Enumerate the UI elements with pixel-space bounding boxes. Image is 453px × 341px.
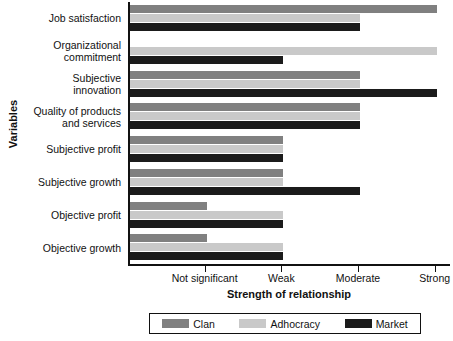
y-tick-label-job-satisfaction: Job satisfaction	[18, 2, 124, 35]
bar-group-subjective-growth	[130, 166, 450, 199]
bar-group-subjective-profit	[130, 133, 450, 166]
y-tick-label-subjective-profit: Subjective profit	[18, 133, 124, 166]
y-tick-label-objective-growth: Objective growth	[18, 231, 124, 264]
bar-group-quality-of-products-and-services	[130, 100, 450, 133]
bar-clan-subjective-growth	[130, 169, 283, 177]
y-tick-label-subjective-growth: Subjective growth	[18, 166, 124, 199]
label-line-1: Job satisfaction	[49, 12, 121, 24]
x-axis-line	[128, 264, 450, 266]
bar-market-quality-of-products-and-services	[130, 121, 360, 129]
legend-swatch-clan	[162, 319, 189, 328]
y-tick-label-quality-of-products-and-services: Quality of products and services	[18, 100, 124, 133]
x-tick-label-not-significant: Not significant	[172, 272, 238, 284]
label-line-2: innovation	[73, 84, 121, 96]
bar-group-organizational-commitment	[130, 35, 450, 68]
y-tick-label-subjective-innovation: Subjective innovation	[18, 68, 124, 101]
legend-label-adhocracy: Adhocracy	[270, 318, 320, 330]
legend-swatch-market	[345, 319, 372, 328]
label-line-1: Subjective growth	[38, 176, 121, 188]
bar-clan-objective-growth	[130, 234, 207, 242]
bar-adhocracy-objective-profit	[130, 211, 283, 219]
bar-market-organizational-commitment	[130, 56, 283, 64]
bar-clan-subjective-profit	[130, 136, 283, 144]
bar-adhocracy-subjective-innovation	[130, 80, 360, 88]
bar-clan-quality-of-products-and-services	[130, 103, 360, 111]
label-line-1: Subjective	[73, 72, 121, 84]
bar-adhocracy-subjective-profit	[130, 145, 283, 153]
chart-legend: Clan Adhocracy Market	[149, 313, 421, 334]
bar-chart: Variables Job satisfaction Organizationa…	[0, 0, 453, 341]
y-axis-tick-labels: Job satisfaction Organizational commitme…	[18, 2, 124, 264]
bar-clan-job-satisfaction	[130, 5, 437, 13]
legend-item-clan: Clan	[162, 318, 215, 330]
bar-market-subjective-profit	[130, 154, 283, 162]
bar-adhocracy-subjective-growth	[130, 178, 283, 186]
bar-clan-objective-profit	[130, 202, 207, 210]
bar-adhocracy-quality-of-products-and-services	[130, 112, 360, 120]
plot-area	[128, 2, 450, 264]
bar-clan-subjective-innovation	[130, 71, 360, 79]
y-tick-label-organizational-commitment: Organizational commitment	[18, 35, 124, 68]
y-tick-label-objective-profit: Objective profit	[18, 199, 124, 232]
label-line-1: Objective profit	[51, 209, 121, 221]
bar-market-objective-profit	[130, 220, 283, 228]
bar-group-objective-growth	[130, 231, 450, 264]
label-line-2: and services	[33, 117, 121, 129]
legend-item-market: Market	[345, 318, 408, 330]
bar-market-subjective-growth	[130, 187, 360, 195]
bar-group-job-satisfaction	[130, 2, 450, 35]
bar-group-objective-profit	[130, 199, 450, 232]
legend-swatch-adhocracy	[239, 319, 266, 328]
label-line-1: Organizational	[53, 39, 121, 51]
legend-item-adhocracy: Adhocracy	[239, 318, 320, 330]
label-line-1: Subjective profit	[46, 143, 121, 155]
bar-market-objective-growth	[130, 252, 283, 260]
label-line-2: commitment	[53, 51, 121, 63]
bar-market-job-satisfaction	[130, 23, 360, 31]
x-tick-label-strong: Strong	[419, 272, 450, 284]
bar-adhocracy-objective-growth	[130, 243, 283, 251]
legend-label-market: Market	[376, 318, 408, 330]
label-line-1: Objective growth	[43, 242, 121, 254]
bar-adhocracy-organizational-commitment	[130, 47, 437, 55]
x-tick-label-moderate: Moderate	[336, 272, 380, 284]
x-tick-label-weak: Weak	[268, 272, 295, 284]
legend-label-clan: Clan	[193, 318, 215, 330]
label-line-1: Quality of products	[33, 105, 121, 117]
bar-market-subjective-innovation	[130, 89, 437, 97]
bar-adhocracy-job-satisfaction	[130, 14, 360, 22]
bar-group-subjective-innovation	[130, 68, 450, 101]
x-axis-title: Strength of relationship	[128, 288, 450, 300]
